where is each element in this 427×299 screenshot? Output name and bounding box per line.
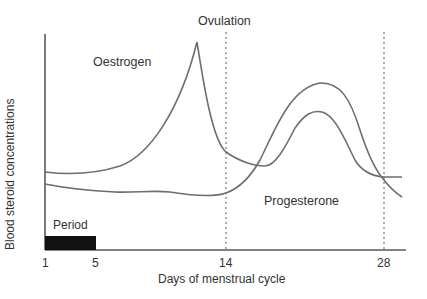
progesterone-label: Progesterone [264,194,339,208]
x-tick-28: 28 [377,256,390,270]
chart-canvas [0,0,427,299]
x-tick-14: 14 [219,256,232,270]
menstrual-cycle-chart: Ovulation Oestrogen Progesterone Period … [0,0,427,299]
period-label: Period [53,218,88,232]
progesterone-curve [45,83,402,197]
ovulation-label: Ovulation [198,14,251,28]
x-axis-title: Days of menstrual cycle [158,272,285,286]
x-tick-5: 5 [92,256,99,270]
x-tick-1: 1 [42,256,49,270]
y-axis-title: Blood steroid concentrations [3,99,17,250]
oestrogen-label: Oestrogen [93,55,151,69]
period-bar [45,236,96,250]
